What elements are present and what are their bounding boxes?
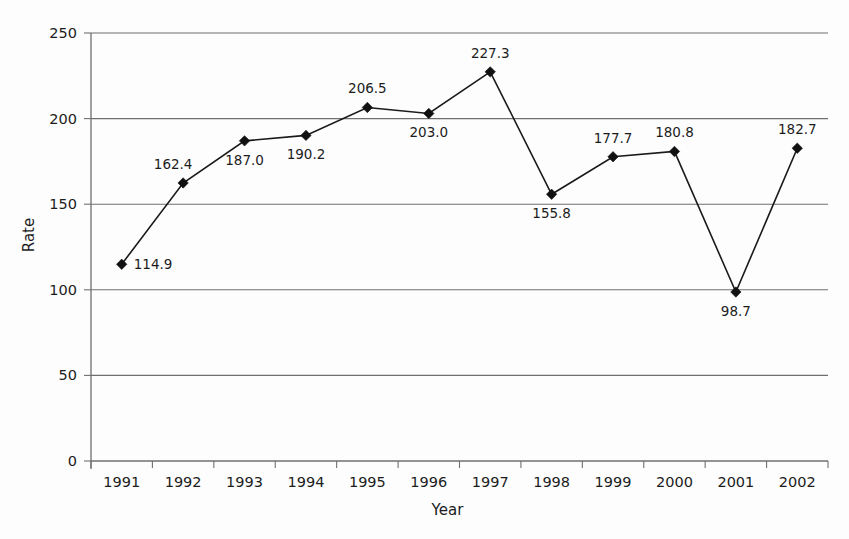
data-point-marker-2000	[669, 146, 679, 156]
data-point-label-1997: 227.3	[471, 45, 510, 61]
y-tick-label-150: 150	[49, 196, 77, 212]
x-tick-label-1996: 1996	[410, 474, 447, 490]
y-tick-label-200: 200	[49, 111, 77, 127]
data-point-label-2002: 182.7	[778, 121, 817, 137]
x-tick-label-2002: 2002	[779, 474, 816, 490]
x-tick-label-1991: 1991	[103, 474, 140, 490]
x-tick-label-1999: 1999	[595, 474, 632, 490]
y-axis-title: Rate	[20, 218, 38, 252]
y-tick-label-0: 0	[68, 453, 77, 469]
line-chart-figure: 0501001502002501991199219931994199519961…	[0, 0, 849, 539]
data-point-label-1992: 162.4	[154, 156, 193, 172]
x-tick-label-1997: 1997	[472, 474, 509, 490]
data-point-marker-1998	[546, 189, 556, 199]
data-point-label-1995: 206.5	[348, 80, 387, 96]
x-tick-label-1993: 1993	[226, 474, 263, 490]
data-series-line	[122, 72, 798, 292]
x-tick-label-1995: 1995	[349, 474, 386, 490]
data-point-marker-1997	[485, 67, 495, 77]
x-tick-label-1992: 1992	[165, 474, 202, 490]
data-point-label-1999: 177.7	[594, 130, 633, 146]
x-tick-label-1998: 1998	[533, 474, 570, 490]
data-point-label-1998: 155.8	[532, 205, 571, 221]
data-point-label-1996: 203.0	[409, 124, 448, 140]
data-point-marker-1996	[424, 108, 434, 118]
data-point-marker-2001	[731, 287, 741, 297]
x-tick-label-2001: 2001	[717, 474, 754, 490]
data-point-label-2001: 98.7	[721, 303, 751, 319]
data-point-label-1991: 114.9	[134, 256, 173, 272]
x-axis-title: Year	[431, 501, 465, 519]
data-point-marker-1994	[301, 130, 311, 140]
data-point-label-1994: 190.2	[287, 146, 326, 162]
y-tick-label-100: 100	[49, 282, 77, 298]
data-point-label-2000: 180.8	[655, 124, 694, 140]
x-tick-label-2000: 2000	[656, 474, 693, 490]
data-point-label-1993: 187.0	[225, 152, 264, 168]
data-point-marker-2002	[792, 143, 802, 153]
data-point-marker-1999	[608, 152, 618, 162]
data-point-marker-1995	[362, 102, 372, 112]
y-tick-label-50: 50	[59, 367, 77, 383]
x-tick-label-1994: 1994	[288, 474, 325, 490]
y-tick-label-250: 250	[49, 25, 77, 41]
data-point-marker-1993	[239, 136, 249, 146]
chart-canvas: 0501001502002501991199219931994199519961…	[0, 0, 849, 539]
